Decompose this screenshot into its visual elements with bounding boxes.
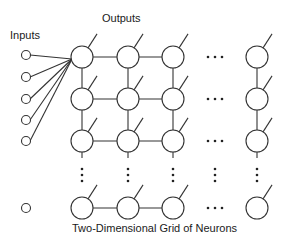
neuron-node <box>246 46 268 68</box>
ellipsis-dot <box>81 174 84 177</box>
input-node <box>22 204 31 213</box>
ellipsis-dot <box>172 180 175 183</box>
ellipsis-dot <box>214 140 217 143</box>
input-node <box>22 73 31 82</box>
input-connection <box>30 55 72 59</box>
input-nodes <box>22 51 31 213</box>
ellipsis-dot <box>221 56 224 59</box>
neuron-grid-diagram: Inputs Outputs Two-Dimensional Grid of N… <box>0 0 285 246</box>
neuron-node <box>246 197 268 219</box>
output-line <box>88 76 97 90</box>
neuron-node <box>71 88 93 110</box>
output-line <box>134 185 143 199</box>
ellipsis-dot <box>214 174 217 177</box>
ellipsis-dot <box>221 140 224 143</box>
ellipsis-dot <box>172 168 175 171</box>
output-line <box>134 34 143 48</box>
neuron-node <box>162 197 184 219</box>
output-line <box>179 76 188 90</box>
neuron-node <box>71 130 93 152</box>
ellipsis-dot <box>214 98 217 101</box>
neuron-node <box>71 197 93 219</box>
input-connection <box>30 59 72 141</box>
ellipsis-dot <box>221 207 224 210</box>
neuron-node <box>162 88 184 110</box>
input-node <box>22 137 31 146</box>
ellipsis-dot <box>207 98 210 101</box>
output-line <box>263 34 272 48</box>
ellipsis-dot <box>81 168 84 171</box>
output-line <box>263 76 272 90</box>
ellipsis-dot <box>207 140 210 143</box>
output-line <box>179 185 188 199</box>
input-node <box>22 51 31 60</box>
ellipsis-dot <box>214 168 217 171</box>
neuron-node <box>246 88 268 110</box>
output-line <box>179 34 188 48</box>
output-line <box>88 185 97 199</box>
ellipsis-dot <box>214 180 217 183</box>
input-connections <box>30 55 72 141</box>
neuron-node <box>117 88 139 110</box>
output-line <box>88 34 97 48</box>
caption: Two-Dimensional Grid of Neurons <box>72 222 238 234</box>
output-line <box>263 185 272 199</box>
ellipsis-dot <box>256 168 259 171</box>
outputs-label: Outputs <box>102 12 141 24</box>
output-line <box>134 76 143 90</box>
neuron-nodes <box>71 46 268 219</box>
ellipsis-dot <box>81 180 84 183</box>
inputs-label: Inputs <box>10 29 40 41</box>
input-node <box>22 95 31 104</box>
neuron-node <box>117 130 139 152</box>
output-line <box>263 118 272 132</box>
ellipsis-dot <box>256 180 259 183</box>
output-line <box>179 118 188 132</box>
neuron-node <box>246 130 268 152</box>
neuron-node <box>71 46 93 68</box>
ellipsis-dot <box>256 174 259 177</box>
neuron-node <box>162 46 184 68</box>
ellipsis-dot <box>214 56 217 59</box>
ellipsis-dot <box>214 207 217 210</box>
ellipsis-dot <box>221 98 224 101</box>
ellipsis-dot <box>127 180 130 183</box>
ellipsis-dot <box>207 207 210 210</box>
ellipsis-dot <box>127 168 130 171</box>
output-line <box>134 118 143 132</box>
ellipsis-dot <box>172 174 175 177</box>
neuron-node <box>117 197 139 219</box>
output-line <box>88 118 97 132</box>
input-connection <box>30 59 72 99</box>
neuron-node <box>162 130 184 152</box>
ellipsis-dot <box>127 174 130 177</box>
input-node <box>22 116 31 125</box>
neuron-node <box>117 46 139 68</box>
ellipsis-dot <box>207 56 210 59</box>
